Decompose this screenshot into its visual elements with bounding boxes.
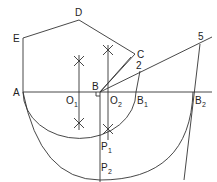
svg-text:1: 1 [144, 101, 148, 108]
svg-text:O: O [110, 95, 118, 106]
projection-5-b2 [184, 44, 200, 180]
svg-text:2: 2 [202, 101, 206, 108]
label-2: 2 [136, 60, 142, 71]
svg-text:1: 1 [74, 101, 78, 108]
line-b-c [100, 57, 131, 92]
label-p1: P 1 [101, 141, 112, 154]
label-b1: B 1 [137, 95, 148, 108]
svg-text:2: 2 [118, 101, 122, 108]
svg-text:O: O [66, 95, 74, 106]
label-e: E [13, 33, 20, 44]
label-p2: P 2 [101, 162, 112, 175]
label-o1: O 1 [66, 95, 78, 108]
svg-text:B: B [137, 95, 144, 106]
right-angle-mark [96, 92, 100, 96]
label-o2: O 2 [110, 95, 122, 108]
label-b: B [92, 81, 99, 92]
svg-text:P: P [101, 162, 108, 173]
label-d: D [75, 7, 82, 18]
svg-text:B: B [195, 95, 202, 106]
svg-text:1: 1 [108, 147, 112, 154]
label-c: C [137, 49, 144, 60]
label-b2: B 2 [195, 95, 206, 108]
construction-diagram: D E C 2 5 A B O 1 O 2 B 1 B 2 P 1 P 2 [0, 0, 217, 182]
svg-text:2: 2 [108, 168, 112, 175]
label-5: 5 [198, 31, 204, 42]
svg-text:P: P [101, 141, 108, 152]
label-a: A [13, 87, 20, 98]
arc-a-b1 [23, 92, 136, 138]
